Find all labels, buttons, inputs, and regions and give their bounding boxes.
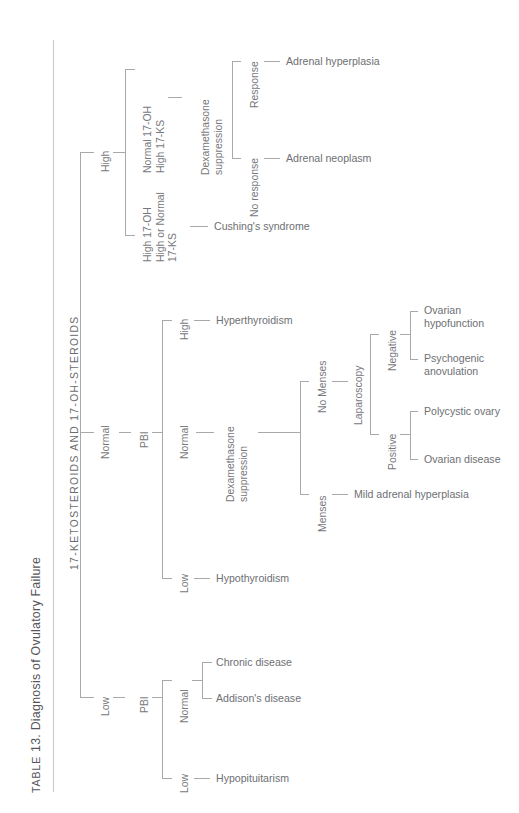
test-dexamethasone-suppression-high: Dexamethasone suppression	[200, 99, 225, 175]
pbi-low-connector	[152, 697, 162, 698]
normal-17oh-line1: Normal 17-OH	[142, 106, 155, 173]
node-low-label: Low	[101, 697, 111, 716]
diagnosis-mild-adrenal-hyperplasia: Mild adrenal hyperplasia	[354, 488, 469, 501]
column-header: 17-KETOSTEROIDS AND 17-OH-STEROIDS	[70, 315, 80, 570]
table-caption-number: 13.	[29, 734, 43, 752]
test-dexamethasone-suppression-normal: Dexamethasone suppression	[225, 426, 250, 502]
positive-bracket	[410, 411, 411, 459]
high-subspine-bottom-cap	[125, 235, 135, 236]
figure-canvas: TABLE 13. Diagnosis of Ovulatory Failure…	[0, 0, 519, 813]
laparoscopy-bracket-bottom	[370, 434, 379, 435]
root-spine-bottom-cap	[80, 697, 94, 698]
hyperthyroidism-connector	[194, 320, 210, 321]
pbi-normal-subspine-bottom-cap	[162, 578, 172, 579]
table-caption-title: Diagnosis of Ovulatory Failure	[29, 557, 43, 730]
node-pbi-normal-label: Normal	[180, 426, 190, 460]
pbi-low-subspine-top-cap	[162, 680, 172, 681]
pbi-normal-connector	[152, 432, 162, 433]
pbi-normal-dex-connector	[196, 432, 214, 433]
node-high17oh-label: High 17-OH High or Normal 17-KS	[142, 192, 180, 262]
low-normal-bracket-bottom	[202, 698, 212, 699]
no-menses-connector	[332, 381, 348, 382]
table-caption: TABLE 13. Diagnosis of Ovulatory Failure	[30, 557, 42, 793]
diagnosis-chronic-disease: Chronic disease	[216, 656, 292, 669]
negative-bracket-top	[410, 311, 418, 312]
pbi-normal-subspine-top-cap	[162, 320, 172, 321]
normal17oh-connector	[168, 97, 182, 98]
diagnosis-psychogenic-anovulation: Psychogenic anovulation	[424, 352, 484, 378]
17ks-line3: 17-KS	[167, 192, 180, 262]
hypopituitarism-connector	[194, 778, 210, 779]
dexamethasone-line1-b: Dexamethasone	[225, 426, 238, 502]
dex-normal-bracket-bottom	[300, 494, 309, 495]
root-connector	[80, 432, 94, 433]
high-connector	[113, 152, 125, 153]
diagnosis-polycystic-ovary: Polycystic ovary	[424, 405, 500, 418]
normal-connector	[119, 432, 131, 433]
result-positive-label: Positive	[388, 434, 398, 470]
pbi-low-subspine-bottom-cap	[162, 778, 172, 779]
negative-connector	[400, 334, 410, 335]
anovulation-line2: anovulation	[424, 365, 484, 378]
pbi-low-subspine	[162, 680, 163, 778]
positive-bracket-bottom	[410, 459, 418, 460]
high-subspine	[125, 69, 126, 235]
dex-high-bracket	[232, 61, 233, 158]
dexamethasone-line1: Dexamethasone	[200, 99, 213, 175]
ovarian-line1: Ovarian	[424, 304, 484, 317]
negative-bracket-bottom	[410, 359, 418, 360]
caption-divider-rule	[53, 40, 54, 792]
psychogenic-line1: Psychogenic	[424, 352, 484, 365]
outcome-no-menses-label: No Menses	[318, 360, 328, 413]
diagnosis-hypopituitarism: Hypopituitarism	[216, 772, 289, 785]
node-normal17oh-label: Normal 17-OH High 17-KS	[142, 106, 167, 173]
dex-high-bracket-bottom	[232, 158, 241, 159]
node-normal-label: Normal	[101, 426, 111, 460]
cushings-connector	[190, 226, 208, 227]
low-normal-bracket	[202, 662, 203, 698]
negative-bracket	[410, 311, 411, 359]
menses-connector	[332, 494, 348, 495]
dex-high-bracket-top	[232, 61, 241, 62]
outcome-no-response-label: No response	[250, 158, 260, 217]
diagnosis-ovarian-hypofunction: Ovarian hypofunction	[424, 304, 484, 330]
diagnosis-hypothyroidism: Hypothyroidism	[216, 572, 289, 585]
dex-normal-connector	[258, 432, 300, 433]
test-pbi-normal: PBI	[140, 431, 150, 448]
positive-bracket-top	[410, 411, 418, 412]
laparoscopy-bracket-top	[370, 334, 379, 335]
diagnosis-adrenal-hyperplasia: Adrenal hyperplasia	[286, 55, 380, 68]
low-normal-bracket-top	[202, 662, 212, 663]
positive-connector	[400, 434, 410, 435]
high-17ks-line2: High 17-KS	[155, 106, 168, 173]
node-high-label: High	[101, 151, 111, 172]
hypofunction-line2: hypofunction	[424, 317, 484, 330]
high-17oh-line1: High 17-OH	[142, 192, 155, 262]
high-or-normal-line2: High or Normal	[155, 192, 168, 262]
test-pbi-low: PBI	[140, 696, 150, 713]
table-caption-label: TABLE	[30, 756, 42, 793]
laparoscopy-bracket	[370, 334, 371, 434]
outcome-menses-label: Menses	[318, 496, 328, 532]
node-pbi-high-label: High	[180, 319, 190, 340]
diagnosis-hyperthyroidism: Hyperthyroidism	[216, 314, 293, 327]
low-connector	[113, 697, 125, 698]
diagnosis-cushings-syndrome: Cushing's syndrome	[214, 220, 310, 233]
dex-normal-bracket	[300, 381, 301, 494]
pbi-normal-subspine	[162, 320, 163, 578]
outcome-response-label: Response	[250, 61, 260, 108]
diagnosis-addisons-disease: Addison's disease	[216, 692, 301, 705]
suppression-line2: suppression	[213, 99, 226, 175]
diagnosis-adrenal-neoplasm: Adrenal neoplasm	[286, 152, 371, 165]
root-spine	[80, 152, 81, 697]
node-low-pbi-normal-label: Normal	[180, 690, 190, 724]
suppression-line2-b: suppression	[238, 426, 251, 502]
no-response-connector	[264, 158, 280, 159]
hypothyroidism-connector	[194, 578, 210, 579]
node-pbi-low-label: Low	[180, 574, 190, 593]
test-laparoscopy: Laparoscopy	[354, 366, 364, 426]
low-normal-connector	[192, 680, 202, 681]
diagnosis-ovarian-disease: Ovarian disease	[424, 453, 501, 466]
high-subspine-top-cap	[125, 69, 135, 70]
result-negative-label: Negative	[388, 330, 398, 371]
